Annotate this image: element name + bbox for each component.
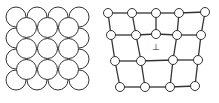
lattice-node <box>104 9 113 18</box>
lattice-node <box>175 9 184 18</box>
packed-atom-lattice <box>6 7 89 90</box>
lattice-node <box>132 31 141 40</box>
lattice-node <box>169 56 178 65</box>
atom <box>17 18 37 38</box>
lattice-node <box>201 8 210 17</box>
lattice-node <box>173 31 182 40</box>
atom <box>38 39 58 59</box>
lattice-node <box>116 83 125 92</box>
atom <box>38 18 58 38</box>
lattice-node <box>194 56 203 65</box>
lattice-node <box>152 9 161 18</box>
lattice-node <box>111 57 120 66</box>
lattice-node <box>152 30 161 39</box>
lattice-node <box>197 31 206 40</box>
lattice-figure: ⊥ <box>0 0 219 103</box>
dislocation-symbol: ⊥ <box>152 42 160 52</box>
lattice-node <box>141 83 150 92</box>
atom <box>59 60 79 80</box>
atom <box>38 60 58 80</box>
lattice-node <box>107 31 116 40</box>
atom <box>59 18 79 38</box>
lattice-node <box>191 82 200 91</box>
atom <box>17 60 37 80</box>
lattice-node <box>128 9 137 18</box>
lattice-node <box>137 57 146 66</box>
dislocation-lattice: ⊥ <box>104 8 210 92</box>
atom <box>59 39 79 59</box>
lattice-node <box>166 83 175 92</box>
atom <box>17 39 37 59</box>
